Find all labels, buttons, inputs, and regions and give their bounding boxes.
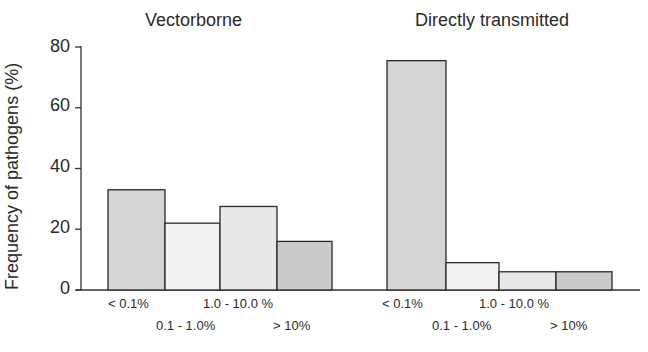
y-tick-60: 60 (30, 95, 70, 116)
bar-chart (0, 0, 648, 352)
bar-vectorborne-3 (277, 241, 332, 290)
panel-title-directly-transmitted: Directly transmitted (415, 10, 569, 31)
bar-vectorborne-0 (108, 190, 165, 290)
bar-direct-2 (499, 272, 556, 290)
bar-vectorborne-2 (220, 206, 277, 290)
y-ticks (75, 47, 81, 290)
v-cat-1-10: 1.0 - 10.0 % (203, 296, 273, 311)
v-cat-gt-10: > 10% (273, 318, 310, 333)
panel-title-vectorborne: Vectorborne (145, 10, 242, 31)
v-cat-0-1-1: 0.1 - 1.0% (156, 318, 215, 333)
y-tick-80: 80 (30, 36, 70, 57)
y-tick-20: 20 (30, 217, 70, 238)
d-cat-0-1-1: 0.1 - 1.0% (432, 318, 491, 333)
y-tick-40: 40 (30, 156, 70, 177)
bar-vectorborne-1 (165, 223, 220, 290)
d-cat-gt-10: > 10% (550, 318, 587, 333)
bar-direct-0 (387, 61, 446, 290)
d-cat-1-10: 1.0 - 10.0 % (479, 296, 549, 311)
bar-direct-3 (556, 272, 612, 290)
bar-direct-1 (446, 263, 499, 290)
d-cat-lt-0-1: < 0.1% (382, 296, 423, 311)
v-cat-lt-0-1: < 0.1% (108, 296, 149, 311)
bars (108, 61, 612, 290)
y-tick-0: 0 (30, 278, 70, 299)
y-axis-label: Frequency of pathogens (%) (2, 63, 23, 290)
